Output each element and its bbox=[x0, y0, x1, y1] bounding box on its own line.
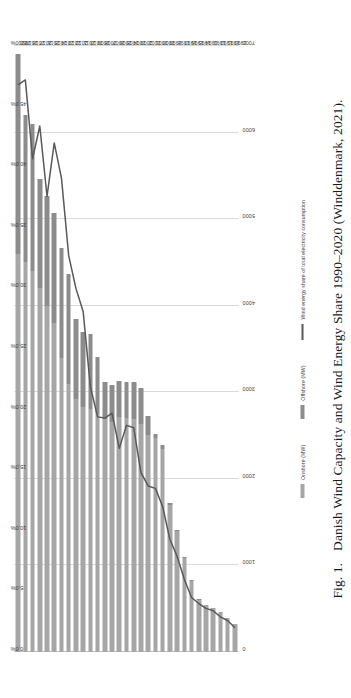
share-tick-label: 10,0% bbox=[10, 525, 26, 531]
share-tick-label: 0,0% bbox=[10, 646, 23, 652]
legend-label: Wind energy share of total electricity c… bbox=[299, 200, 305, 319]
capacity-tick-label: 0 bbox=[242, 646, 245, 652]
share-tick-label: 40,0% bbox=[10, 161, 26, 167]
legend-item-onshore: Onshore (MW) bbox=[299, 445, 305, 498]
share-tick-label: 25,0% bbox=[10, 343, 26, 349]
legend-item-offshore: Offshore (MW) bbox=[299, 366, 305, 419]
chart-legend: Onshore (MW)Offshore (MW)Wind energy sha… bbox=[299, 0, 305, 698]
year-tick-label: 2020 bbox=[18, 40, 30, 46]
caption-text: Danish Wind Capacity and Wind Energy Sha… bbox=[329, 99, 344, 550]
figure-caption: Fig. 1.Danish Wind Capacity and Wind Ene… bbox=[329, 0, 345, 698]
capacity-tick-label: 4000 bbox=[242, 300, 254, 306]
legend-item-share: Wind energy share of total electricity c… bbox=[299, 200, 305, 339]
legend-swatch-onshore-icon bbox=[300, 484, 304, 498]
share-tick-label: 15,0% bbox=[10, 464, 26, 470]
legend-swatch-offshore-icon bbox=[300, 405, 304, 419]
share-tick-label: 30,0% bbox=[10, 282, 26, 288]
capacity-tick-label: 1000 bbox=[242, 559, 254, 565]
legend-label: Offshore (MW) bbox=[299, 366, 305, 401]
figure-inner: 0,0%5,0%10,0%15,0%20,0%25,0%30,0%35,0%40… bbox=[0, 0, 351, 698]
plot-canvas bbox=[14, 46, 238, 652]
line-series-group bbox=[14, 46, 238, 652]
legend-swatch-share-icon bbox=[301, 324, 303, 340]
share-tick-label: 35,0% bbox=[10, 222, 26, 228]
capacity-tick-label: 5000 bbox=[242, 213, 254, 219]
capacity-tick-label: 3000 bbox=[242, 386, 254, 392]
capacity-tick-label: 6000 bbox=[242, 127, 254, 133]
capacity-tick-label: 2000 bbox=[242, 473, 254, 479]
figure-rotator: 0,0%5,0%10,0%15,0%20,0%25,0%30,0%35,0%40… bbox=[0, 0, 351, 698]
caption-label: Fig. 1. bbox=[329, 563, 344, 599]
chart-plot-area: 0,0%5,0%10,0%15,0%20,0%25,0%30,0%35,0%40… bbox=[14, 46, 266, 652]
share-tick-label: 20,0% bbox=[10, 404, 26, 410]
share-tick-label: 5,0% bbox=[10, 585, 23, 591]
share-tick-label: 45,0% bbox=[10, 101, 26, 107]
legend-label: Onshore (MW) bbox=[299, 445, 305, 480]
share-line bbox=[18, 80, 235, 628]
